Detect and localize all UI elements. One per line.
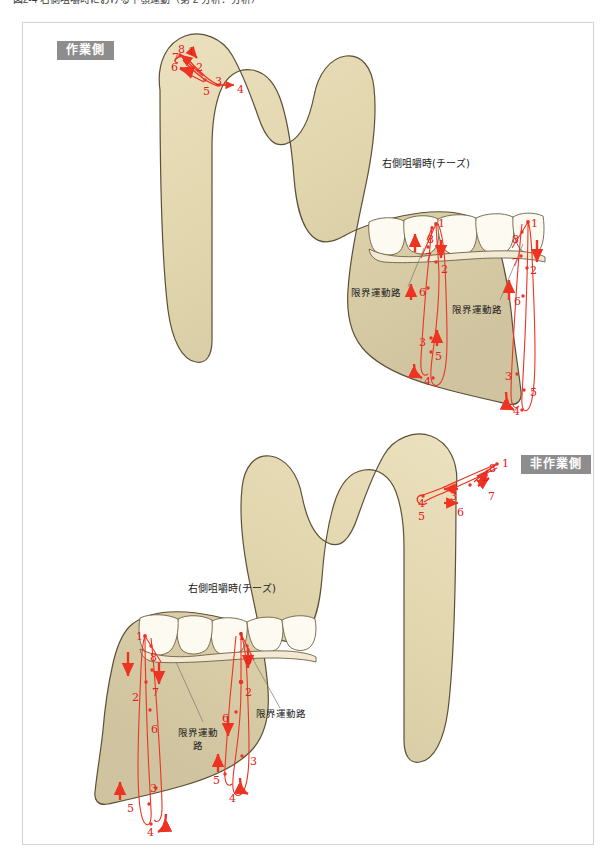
trace-marker-non-working-side-incisor-markers-outer-4: 4 <box>147 827 154 838</box>
trace-marker-non-working-side-condyle-markers-3: 3 <box>450 491 457 502</box>
trace-marker-working-side-condyle-markers-5: 5 <box>203 86 210 97</box>
trace-marker-non-working-side-incisor-markers-outer-2: 2 <box>132 692 139 703</box>
trace-marker-non-working-side-incisor-markers-outer-5: 5 <box>127 803 134 814</box>
trace-marker-working-side-incisor-markers-outer-8: 8 <box>512 234 519 245</box>
trace-marker-working-side-condyle-markers-1: 1 <box>188 46 195 57</box>
trace-marker-non-working-side-incisor-markers-outer-8: 8 <box>150 652 157 663</box>
trace-marker-working-side-condyle-markers-4: 4 <box>237 84 244 95</box>
trace-marker-working-side-incisor-markers-inner-7: 7 <box>425 252 432 263</box>
trace-marker-working-side-incisor-markers-inner-8: 8 <box>427 234 434 245</box>
trace-marker-working-side-incisor-markers-inner-2: 2 <box>441 264 448 275</box>
trace-marker-working-side-incisor-markers-outer-7: 7 <box>512 257 519 268</box>
trace-marker-non-working-side-condyle-markers-6: 6 <box>457 507 464 518</box>
trace-marker-working-side-incisor-markers-outer-4: 4 <box>513 406 520 417</box>
side-badge-non-working: 非作業側 <box>521 455 591 474</box>
trace-marker-working-side-incisor-markers-outer-2: 2 <box>530 265 537 276</box>
trace-marker-working-side-incisor-markers-inner-5: 5 <box>435 351 442 362</box>
trace-marker-non-working-side-condyle-markers-7: 7 <box>488 491 495 502</box>
trace-marker-working-side-incisor-markers-inner-6: 6 <box>419 287 426 298</box>
trace-marker-non-working-side-incisor-markers-inner-3: 3 <box>250 756 257 767</box>
mandible-non-working-side <box>95 434 499 832</box>
border-movement-label-working-inner: 限界運動路 <box>351 286 401 299</box>
border-movement-label-working-outer: 限界運動路 <box>452 303 502 316</box>
side-badge-working: 作業側 <box>57 41 114 60</box>
trace-marker-non-working-side-incisor-markers-outer-3: 3 <box>150 783 157 794</box>
trace-marker-working-side-incisor-markers-outer-6: 6 <box>514 296 521 307</box>
diagram-stage <box>0 0 616 860</box>
trace-marker-working-side-condyle-markers-3: 3 <box>215 76 222 87</box>
trace-marker-non-working-side-incisor-markers-outer-7: 7 <box>152 687 159 698</box>
trace-marker-non-working-side-incisor-markers-inner-6: 6 <box>222 713 229 724</box>
trace-marker-working-side-condyle-markers-6: 6 <box>171 62 178 73</box>
trace-marker-working-side-incisor-markers-inner-3: 3 <box>419 337 426 348</box>
condition-title-non-working: 右側咀嚼時(チーズ) <box>188 582 276 595</box>
trace-marker-non-working-side-incisor-markers-inner-8: 8 <box>245 655 252 666</box>
border-movement-label-non-working-outer: 限界運動路 <box>175 726 221 752</box>
trace-marker-non-working-side-incisor-markers-inner-1: 1 <box>238 631 245 642</box>
mandible-working-side <box>159 34 545 412</box>
trace-marker-non-working-side-incisor-markers-outer-1: 1 <box>136 631 143 642</box>
trace-marker-non-working-side-incisor-markers-inner-4: 4 <box>229 793 236 804</box>
trace-marker-non-working-side-condyle-markers-4: 4 <box>418 498 425 509</box>
trace-marker-non-working-side-condyle-markers-2: 2 <box>482 472 489 483</box>
trace-marker-non-working-side-incisor-markers-inner-2: 2 <box>245 687 252 698</box>
trace-marker-working-side-incisor-markers-outer-3: 3 <box>505 371 512 382</box>
trace-marker-working-side-incisor-markers-inner-1: 1 <box>438 218 445 229</box>
trace-marker-working-side-condyle-markers-2: 2 <box>196 62 203 73</box>
trace-marker-working-side-incisor-markers-outer-1: 1 <box>531 218 538 229</box>
trace-marker-non-working-side-condyle-markers-5: 5 <box>418 511 425 522</box>
trace-marker-non-working-side-condyle-markers-1: 1 <box>502 458 509 469</box>
condition-title-working: 右側咀嚼時(チーズ) <box>382 157 470 170</box>
trace-marker-working-side-incisor-markers-outer-5: 5 <box>530 387 537 398</box>
trace-marker-non-working-side-condyle-markers-8: 8 <box>489 463 496 474</box>
border-movement-label-non-working-inner: 限界運動路 <box>256 707 306 720</box>
trace-marker-working-side-condyle-markers-8: 8 <box>178 44 185 55</box>
trace-marker-non-working-side-incisor-markers-inner-5: 5 <box>213 775 220 786</box>
trace-marker-working-side-incisor-markers-inner-4: 4 <box>424 376 431 387</box>
trace-marker-non-working-side-incisor-markers-outer-6: 6 <box>151 724 158 735</box>
